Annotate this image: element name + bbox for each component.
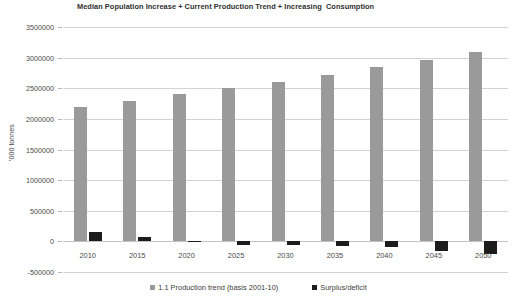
x-axis-tick-label: 2010 [63, 251, 112, 260]
y-axis-tick-mark [58, 27, 62, 28]
y-axis-tick-label: 3000000 [0, 54, 54, 63]
y-axis-tick-mark [58, 241, 62, 242]
x-axis-tick-label: 2050 [459, 251, 508, 260]
bar-group [370, 27, 398, 272]
bar-production-trend [321, 75, 334, 242]
bar-production-trend [272, 82, 285, 241]
bar-group [420, 27, 448, 272]
y-axis-tick-label: 500000 [0, 207, 54, 216]
bar-production-trend [173, 94, 186, 241]
bar-surplus-deficit [385, 241, 398, 247]
y-axis-tick-mark [58, 88, 62, 89]
x-axis-tick-label: 2025 [211, 251, 260, 260]
y-axis-tick-label: 0 [0, 237, 54, 246]
bar-group [74, 27, 102, 272]
bars-layer [63, 27, 508, 272]
legend-label: 1.1 Production trend (basis 2001-10) [158, 283, 278, 292]
legend-swatch-icon [312, 285, 317, 290]
bar-surplus-deficit [188, 241, 201, 243]
y-axis-tick-label: 2500000 [0, 84, 54, 93]
x-axis-tick-label: 2045 [409, 251, 458, 260]
bar-surplus-deficit [287, 241, 300, 245]
y-axis-tick-label: -500000 [0, 268, 54, 277]
bar-production-trend [370, 67, 383, 242]
y-axis-tick-label: 1000000 [0, 176, 54, 185]
chart-legend: 1.1 Production trend (basis 2001-10)Surp… [0, 283, 517, 292]
bar-production-trend [469, 52, 482, 241]
bar-production-trend [74, 107, 87, 242]
x-axis-tick-label: 2035 [310, 251, 359, 260]
bar-surplus-deficit [89, 232, 102, 241]
x-axis-tick-label: 2015 [112, 251, 161, 260]
bar-production-trend [420, 60, 433, 241]
bar-group [272, 27, 300, 272]
legend-label: Surplus/deficit [320, 283, 366, 292]
y-axis-tick-mark [58, 272, 62, 273]
bar-surplus-deficit [435, 241, 448, 251]
y-axis-tick-label: 2000000 [0, 115, 54, 124]
plot-area [63, 27, 508, 272]
y-axis-tick-label: 1500000 [0, 146, 54, 155]
x-axis-tick-label: 2020 [162, 251, 211, 260]
bar-surplus-deficit [237, 241, 250, 245]
bar-group [173, 27, 201, 272]
legend-item[interactable]: 1.1 Production trend (basis 2001-10) [150, 283, 278, 292]
x-axis-tick-label: 2040 [360, 251, 409, 260]
bar-surplus-deficit [138, 237, 151, 241]
legend-swatch-icon [150, 285, 155, 290]
bar-group [222, 27, 250, 272]
y-axis-tick-mark [58, 58, 62, 59]
y-axis-tick-label: 3500000 [0, 23, 54, 32]
y-axis-tick-mark [58, 150, 62, 151]
y-axis-tick-mark [58, 119, 62, 120]
legend-item[interactable]: Surplus/deficit [312, 283, 366, 292]
bar-group [469, 27, 497, 272]
bar-group [321, 27, 349, 272]
bar-chart: Median Population Increase + Current Pro… [0, 0, 517, 304]
chart-title: Median Population Increase + Current Pro… [77, 2, 374, 11]
y-axis-tick-mark [58, 211, 62, 212]
bar-surplus-deficit [336, 241, 349, 245]
bar-group [123, 27, 151, 272]
y-axis-tick-mark [58, 180, 62, 181]
gridline [63, 272, 508, 273]
bar-production-trend [123, 101, 136, 242]
bar-production-trend [222, 88, 235, 241]
x-axis-tick-label: 2030 [261, 251, 310, 260]
